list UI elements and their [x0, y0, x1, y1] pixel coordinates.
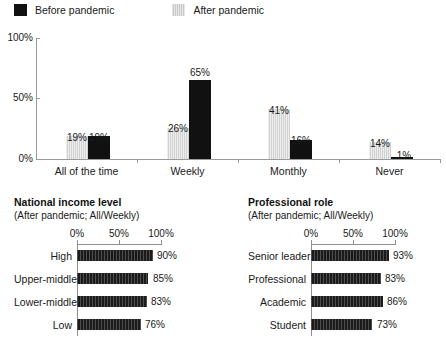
hb-bar-high	[77, 250, 153, 261]
hb-row-label-high: High	[14, 250, 72, 262]
hb-tick-50	[119, 240, 120, 244]
hb-row-label-senior-leader: Senior leader	[248, 250, 306, 262]
black-square-icon	[14, 4, 27, 16]
bar-value-before-never: 1%	[383, 150, 425, 161]
hb-value-senior-leader: 93%	[393, 250, 413, 261]
y-tick-label-0: 0%	[19, 153, 33, 164]
bar-value-after-monthly: 41%	[258, 105, 300, 116]
bar-value-after-never: 14%	[359, 138, 401, 149]
chart-legend: Before pandemic After pandemic	[14, 2, 264, 18]
hb-bar-low	[77, 319, 141, 330]
hb-row-label-lower-middle: Lower-middle	[14, 296, 72, 308]
bar-value-before-weekly: 65%	[179, 67, 221, 78]
hb-bar-student	[311, 319, 372, 330]
x-tick-mark-1	[137, 159, 138, 163]
hb-row-label-academic: Academic	[248, 296, 306, 308]
bar-value-after-weekly: 26%	[157, 123, 199, 134]
bar-before-weekly	[189, 80, 211, 159]
hb-tick-100	[161, 240, 162, 244]
x-tick-mark-2	[238, 159, 239, 163]
legend-label-before-pandemic: Before pandemic	[35, 4, 114, 16]
bar-value-before-all-of-the-time: 19%	[78, 132, 120, 143]
hb-axis-top-line	[77, 244, 162, 245]
hb-tick-label-100: 100%	[376, 228, 414, 239]
y-tick-label-50: 50%	[13, 92, 33, 103]
panel-subtitle-national-income-level: (After pandemic; All/Weekly)	[14, 209, 234, 222]
hb-tick-100	[395, 240, 396, 244]
x-group-label-never: Never	[339, 165, 440, 177]
hb-bar-academic	[311, 296, 383, 307]
hbar-chart-national-income-level: 0% 50% 100% High 90% Upper-middle 85% Lo…	[14, 228, 234, 340]
x-tick-mark-4	[440, 159, 441, 163]
hb-value-high: 90%	[157, 250, 177, 261]
hb-value-student: 73%	[377, 319, 397, 330]
panel-national-income-level: National income level (After pandemic; A…	[14, 196, 234, 345]
panel-professional-role: Professional role (After pandemic; All/W…	[248, 196, 446, 345]
hb-row-label-professional: Professional	[248, 273, 306, 285]
hb-tick-0	[311, 240, 312, 244]
y-tick-label-100: 100%	[7, 32, 33, 43]
legend-item-after-pandemic: After pandemic	[172, 4, 264, 16]
hb-tick-label-100: 100%	[142, 228, 180, 239]
hb-bar-lower-middle	[77, 296, 147, 307]
bar-value-before-monthly: 16%	[280, 135, 322, 146]
hb-value-low: 76%	[145, 319, 165, 330]
hb-value-upper-middle: 85%	[153, 273, 173, 284]
x-tick-mark-3	[339, 159, 340, 163]
gray-square-icon	[172, 4, 185, 16]
panel-subtitle-professional-role: (After pandemic; All/Weekly)	[248, 209, 446, 222]
hb-tick-0	[77, 240, 78, 244]
hb-tick-50	[353, 240, 354, 244]
hb-row-label-low: Low	[14, 319, 72, 331]
legend-item-before-pandemic: Before pandemic	[14, 4, 114, 16]
hb-bar-professional	[311, 273, 381, 284]
hb-row-label-upper-middle: Upper-middle	[14, 273, 72, 285]
x-group-label-monthly: Monthly	[238, 165, 339, 177]
hb-tick-label-50: 50%	[104, 228, 134, 239]
hb-tick-label-0: 0%	[62, 228, 92, 239]
grouped-bar-chart: 100% 50% 0% 19% 19% 26% 65% 41% 16% 14% …	[0, 28, 446, 180]
hb-row-label-student: Student	[248, 319, 306, 331]
legend-label-after-pandemic: After pandemic	[193, 4, 264, 16]
hb-tick-label-0: 0%	[296, 228, 326, 239]
hb-bar-senior-leader	[311, 250, 389, 261]
hb-axis-top-line	[311, 244, 396, 245]
grouped-bar-plot-area: 19% 19% 26% 65% 41% 16% 14% 1%	[36, 38, 440, 159]
x-group-label-all-of-the-time: All of the time	[36, 165, 137, 177]
hb-tick-label-50: 50%	[338, 228, 368, 239]
hb-value-academic: 86%	[387, 296, 407, 307]
x-group-label-weekly: Weekly	[137, 165, 238, 177]
panel-title-professional-role: Professional role	[248, 196, 446, 209]
hbar-chart-professional-role: 0% 50% 100% Senior leader 93% Profession…	[248, 228, 446, 340]
hb-bar-upper-middle	[77, 273, 148, 284]
y-tick-mark-0	[36, 159, 40, 160]
panel-title-national-income-level: National income level	[14, 196, 234, 209]
hb-value-lower-middle: 83%	[151, 296, 171, 307]
hb-value-professional: 83%	[385, 273, 405, 284]
